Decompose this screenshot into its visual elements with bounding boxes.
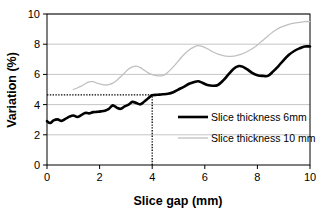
y-tick-label-8: 8 bbox=[34, 38, 40, 50]
x-tick-label-4: 4 bbox=[149, 171, 155, 183]
chart-figure: 0246810 0246810 Variation (%) Slice gap … bbox=[0, 0, 328, 217]
y-tick-label-10: 10 bbox=[28, 8, 40, 20]
y-tick-label-2: 2 bbox=[34, 129, 40, 141]
x-axis-title: Slice gap (mm) bbox=[134, 194, 223, 208]
legend-label-1: Slice thickness 10 mm bbox=[211, 132, 316, 144]
x-tick-label-0: 0 bbox=[44, 171, 50, 183]
x-tick-label-8: 8 bbox=[254, 171, 260, 183]
x-tick-label-10: 10 bbox=[304, 171, 316, 183]
x-tick-label-2: 2 bbox=[97, 171, 103, 183]
y-axis-title: Variation (%) bbox=[5, 52, 19, 128]
y-tick-label-4: 4 bbox=[34, 99, 40, 111]
y-tick-label-0: 0 bbox=[34, 159, 40, 171]
chart-background bbox=[0, 0, 328, 217]
line-chart: 0246810 0246810 Variation (%) Slice gap … bbox=[0, 0, 328, 217]
y-tick-label-6: 6 bbox=[34, 68, 40, 80]
legend-label-0: Slice thickness 6mm bbox=[211, 111, 307, 123]
x-tick-label-6: 6 bbox=[202, 171, 208, 183]
